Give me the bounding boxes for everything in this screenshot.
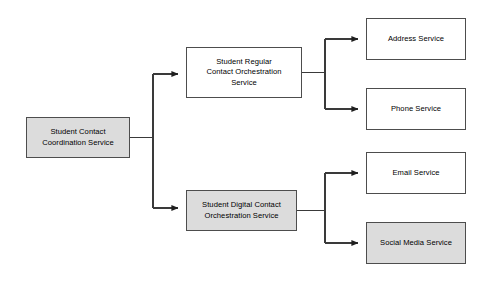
node-address-service[interactable]: Address Service (366, 18, 466, 60)
node-student-regular-contact-orchestration-service[interactable]: Student Regular Contact Orchestration Se… (186, 47, 302, 98)
node-email-service[interactable]: Email Service (366, 152, 466, 194)
node-student-digital-contact-orchestration-service[interactable]: Student Digital Contact Orchestration Se… (186, 190, 297, 231)
node-student-contact-coordination-service[interactable]: Student Contact Coordination Service (26, 117, 130, 158)
node-social-media-service[interactable]: Social Media Service (366, 222, 466, 264)
node-label: Address Service (371, 34, 461, 45)
node-label: Student Digital Contact Orchestration Se… (191, 200, 292, 221)
node-label: Social Media Service (371, 238, 461, 249)
node-phone-service[interactable]: Phone Service (366, 88, 466, 130)
diagram-canvas: Student Contact Coordination Service Stu… (0, 0, 494, 282)
node-label: Email Service (371, 168, 461, 179)
node-label: Phone Service (371, 104, 461, 115)
node-label: Student Contact Coordination Service (31, 127, 125, 148)
node-label: Student Regular Contact Orchestration Se… (191, 57, 297, 89)
